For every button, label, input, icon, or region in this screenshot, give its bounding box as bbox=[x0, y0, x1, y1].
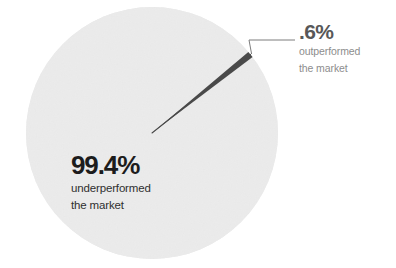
underperformed-label-line1: underperformed bbox=[71, 181, 251, 196]
outperformed-label-line2: the market bbox=[299, 62, 393, 76]
callout-underperformed: 99.4% underperformed the market bbox=[71, 152, 251, 213]
leader-line bbox=[249, 40, 295, 54]
callout-outperformed: .6% outperformed the market bbox=[299, 21, 393, 75]
underperformed-percent: 99.4% bbox=[71, 152, 251, 179]
pie-chart-figure: .6% outperformed the market 99.4% underp… bbox=[0, 0, 396, 268]
underperformed-label-line2: the market bbox=[71, 198, 251, 213]
outperformed-label-line1: outperformed bbox=[299, 45, 393, 59]
outperformed-percent: .6% bbox=[299, 21, 393, 42]
